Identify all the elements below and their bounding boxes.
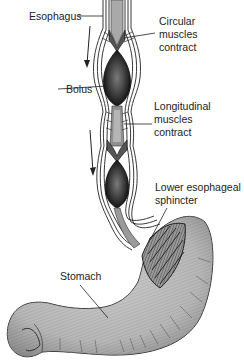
- stomach-illustration: [7, 216, 213, 356]
- bolus-label: Bolus: [66, 83, 92, 95]
- lower-esophageal-sphincter-label-line2: sphincter: [155, 194, 198, 206]
- longitudinal-muscles-label-line3: contract: [154, 126, 191, 138]
- circular-muscles-label-line3: contract: [159, 41, 196, 53]
- peristalsis-diagram: Esophagus Circular muscles contract Bolu…: [0, 0, 244, 364]
- circular-muscles-label-line1: Circular: [159, 15, 196, 27]
- esophagus-label: Esophagus: [29, 10, 82, 22]
- longitudinal-muscles-label-line2: muscles: [154, 113, 193, 125]
- stomach-label: Stomach: [60, 270, 102, 282]
- circular-muscles-label-line2: muscles: [159, 28, 198, 40]
- lower-esophageal-sphincter-label-line1: Lower esophageal: [155, 181, 241, 193]
- longitudinal-muscles-label-line1: Longitudinal: [154, 100, 211, 112]
- downward-arrow-icon: [84, 26, 90, 68]
- downward-arrow-icon: [90, 130, 96, 176]
